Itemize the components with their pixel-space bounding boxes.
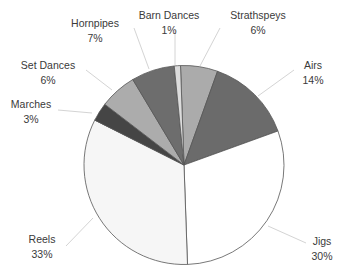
label-category: Jigs <box>311 234 332 249</box>
label-percent: 6% <box>21 73 75 88</box>
data-label-set-dances: Set Dances6% <box>21 58 75 88</box>
data-label-jigs: Jigs30% <box>311 234 332 264</box>
label-percent: 33% <box>29 247 56 262</box>
data-label-strathspeys: Strathspeys6% <box>230 8 285 38</box>
label-category: Set Dances <box>21 58 75 73</box>
label-category: Barn Dances <box>139 8 200 23</box>
leader-line <box>58 110 92 113</box>
label-category: Marches <box>11 97 51 112</box>
data-label-marches: Marches3% <box>11 97 51 127</box>
label-percent: 1% <box>139 23 200 38</box>
leader-line <box>258 70 294 96</box>
leader-line <box>200 28 220 66</box>
leader-line <box>66 218 93 246</box>
label-percent: 3% <box>11 112 51 127</box>
label-category: Airs <box>302 58 323 73</box>
leader-line <box>268 226 306 243</box>
leader-line <box>86 70 112 90</box>
label-percent: 7% <box>71 31 119 46</box>
pie-slices <box>84 65 284 264</box>
label-percent: 6% <box>230 23 285 38</box>
label-percent: 14% <box>302 73 323 88</box>
label-percent: 30% <box>311 249 332 264</box>
label-category: Hornpipes <box>71 16 119 31</box>
data-label-airs: Airs14% <box>302 58 323 88</box>
label-category: Reels <box>29 232 56 247</box>
data-label-reels: Reels33% <box>29 232 56 262</box>
data-label-barn-dances: Barn Dances1% <box>139 8 200 38</box>
data-label-hornpipes: Hornpipes7% <box>71 16 119 46</box>
label-category: Strathspeys <box>230 8 285 23</box>
